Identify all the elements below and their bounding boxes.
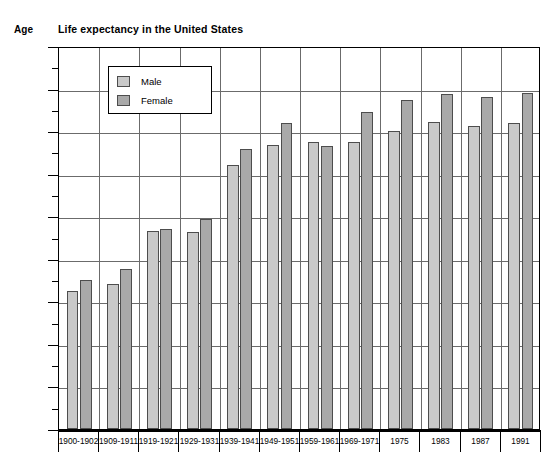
bar-male-1987 [468, 126, 480, 429]
bar-male-1983 [428, 122, 440, 429]
legend-swatch-male-icon [117, 76, 130, 87]
x-axis-label-1991: 1991 [501, 430, 541, 452]
gridline-vertical [421, 48, 422, 429]
bar-female-1991 [522, 93, 534, 429]
gridline-horizontal [59, 176, 539, 177]
y-tick-major [48, 132, 58, 133]
gridline-vertical [220, 48, 221, 429]
x-axis-label-1939-1941: 1939-1941 [220, 430, 260, 452]
legend-label-female: Female [141, 95, 173, 106]
bar-female-1949-1951 [281, 123, 293, 429]
gridline-vertical [260, 48, 261, 429]
gridline-vertical [340, 48, 341, 429]
chart-legend: Male Female [108, 66, 212, 114]
gridline-vertical [380, 48, 381, 429]
bar-female-1969-1971 [361, 112, 373, 429]
bar-male-1949-1951 [267, 145, 279, 429]
x-axis-label-1959-1961: 1959-1961 [300, 430, 340, 452]
bar-male-1959-1961 [308, 142, 320, 429]
legend-swatch-female-icon [117, 95, 130, 106]
x-axis-labels: 1900-19021909-19111919-19211929-19311939… [58, 430, 540, 452]
gridline-horizontal [59, 133, 539, 134]
bar-female-1987 [481, 97, 493, 429]
x-axis-label-1919-1921: 1919-1921 [139, 430, 179, 452]
x-axis-label-1969-1971: 1969-1971 [340, 430, 380, 452]
x-axis-label-1975: 1975 [380, 430, 420, 452]
x-axis-label-1929-1931: 1929-1931 [180, 430, 220, 452]
bar-female-1975 [401, 100, 413, 429]
bar-female-1919-1921 [160, 229, 172, 429]
bar-male-1909-1911 [107, 284, 119, 429]
chart-title: Life expectancy in the United States [58, 23, 243, 35]
y-tick-major [48, 175, 58, 176]
y-tick-major [48, 90, 58, 91]
x-axis-label-1900-1902: 1900-1902 [59, 430, 99, 452]
y-tick-major [48, 47, 58, 48]
chart-container: Age Life expectancy in the United States… [0, 0, 555, 476]
bar-male-1919-1921 [147, 231, 159, 429]
bar-female-1939-1941 [240, 149, 252, 429]
gridline-horizontal [59, 261, 539, 262]
bar-female-1929-1931 [200, 219, 212, 429]
y-tick-major [48, 217, 58, 218]
y-tick-major [48, 302, 58, 303]
x-axis-label-1949-1951: 1949-1951 [260, 430, 300, 452]
bar-male-1929-1931 [187, 232, 199, 429]
legend-item-female: Female [117, 92, 203, 109]
x-axis-label-1909-1911: 1909-1911 [99, 430, 139, 452]
y-tick-major [48, 260, 58, 261]
y-tick-major [48, 345, 58, 346]
bar-female-1983 [441, 94, 453, 429]
legend-label-male: Male [141, 76, 162, 87]
y-axis-title: Age [14, 24, 33, 35]
bar-female-1959-1961 [321, 146, 333, 429]
bar-male-1975 [388, 131, 400, 429]
legend-item-male: Male [117, 73, 203, 90]
bar-male-1900-1902 [67, 291, 79, 429]
gridline-horizontal [59, 218, 539, 219]
y-tick-major [48, 430, 58, 431]
bar-male-1991 [508, 123, 520, 429]
x-axis-label-1987: 1987 [461, 430, 501, 452]
bar-male-1969-1971 [348, 142, 360, 429]
bar-female-1900-1902 [80, 280, 92, 429]
gridline-vertical [300, 48, 301, 429]
y-tick-major [48, 387, 58, 388]
gridline-vertical [501, 48, 502, 429]
gridline-vertical [461, 48, 462, 429]
bar-female-1909-1911 [120, 269, 132, 429]
gridline-vertical [99, 48, 100, 429]
x-axis-label-1983: 1983 [421, 430, 461, 452]
bar-male-1939-1941 [227, 165, 239, 429]
